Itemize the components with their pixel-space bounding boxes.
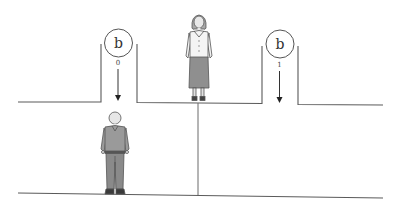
particle-1: b 1 [266, 30, 294, 103]
diagram-canvas: b 0 b 1 [0, 0, 395, 208]
particle-index-label: 1 [277, 61, 281, 69]
particle-symbol: b [114, 35, 123, 51]
particle-symbol: b [276, 36, 285, 52]
upper-floor-right-segment [298, 46, 383, 105]
woman-figure-icon [186, 15, 212, 101]
particle-0: b 0 [105, 29, 133, 101]
man-figure-icon [101, 112, 129, 194]
down-arrow-icon [115, 95, 121, 101]
down-arrow-icon [277, 97, 283, 103]
diagram-svg: b 0 b 1 [0, 0, 395, 208]
upper-floor-left-segment [18, 44, 101, 102]
particle-index-label: 0 [116, 59, 120, 67]
ground-line [18, 193, 383, 198]
